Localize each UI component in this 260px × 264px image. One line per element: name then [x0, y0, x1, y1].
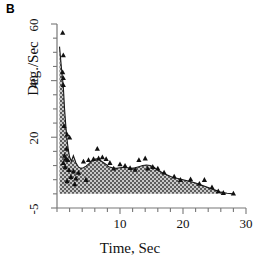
x-axis-title: Time, Sec	[0, 240, 260, 257]
x-tick-label: 20	[168, 216, 198, 232]
figure-panel-b: B Deg./Sec Time, Sec -5204060102030	[0, 0, 260, 264]
y-tick-label: 60	[26, 10, 42, 40]
y-tick-label: 20	[26, 123, 42, 153]
y-tick-label: -5	[26, 194, 42, 224]
x-tick-label: 10	[105, 216, 135, 232]
x-tick-label: 30	[231, 216, 260, 232]
area-fill	[60, 47, 234, 194]
y-tick-label: 40	[26, 67, 42, 97]
panel-label: B	[6, 3, 15, 15]
